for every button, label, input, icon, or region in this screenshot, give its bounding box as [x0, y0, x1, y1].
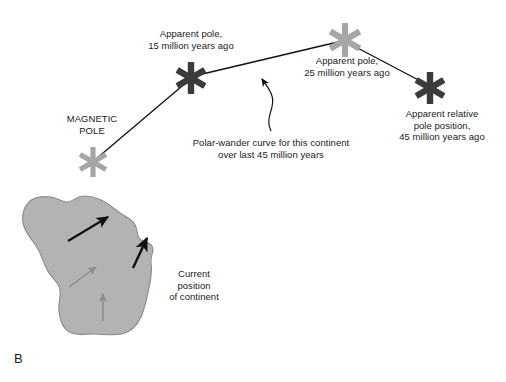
marker-apparent-pole-15ma — [176, 62, 207, 94]
marker-magnetic-pole — [79, 147, 108, 177]
label-apparent-pole-25ma: Apparent pole, 25 million years ago — [283, 55, 411, 78]
figure-canvas: Apparent pole, 15 million years ago Appa… — [0, 0, 506, 382]
label-current-position-of-continent: Current position of continent — [152, 268, 236, 303]
marker-apparent-pole-25ma — [329, 23, 362, 57]
label-apparent-pole-45ma: Apparent relative pole position, 45 mill… — [381, 108, 503, 143]
label-magnetic-pole: MAGNETIC POLE — [53, 113, 131, 136]
diagram-svg — [0, 0, 506, 382]
marker-apparent-pole-45ma — [415, 72, 446, 104]
caption-leader-arrow — [262, 79, 273, 131]
label-polar-wander-caption: Polar-wander curve for this continent ov… — [182, 137, 360, 160]
label-apparent-pole-15ma: Apparent pole, 15 million years ago — [127, 28, 255, 51]
panel-letter: B — [14, 352, 23, 366]
